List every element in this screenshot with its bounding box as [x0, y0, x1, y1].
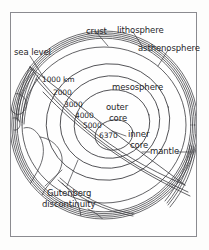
- depth-label-6370: 6370: [99, 132, 118, 140]
- depth-label-4000: 4000: [75, 112, 94, 120]
- label-crust: crust: [86, 27, 107, 36]
- label-asthenosphere: asthenosphere: [138, 44, 200, 53]
- sea-level-shell-bundle: [16, 67, 38, 124]
- depth-label-2000: 2000: [53, 89, 72, 97]
- depth-label-3000: 3000: [64, 101, 83, 109]
- label-inner-core-line2: core: [130, 141, 148, 150]
- label-mantle: mantle: [150, 147, 179, 156]
- diagram-canvas: crust lithosphere asthenosphere sea leve…: [0, 0, 209, 250]
- depth-label-5000: 5000: [83, 122, 102, 130]
- earth-cross-section-drawing: [0, 0, 209, 250]
- label-sea-level: sea level: [14, 48, 51, 57]
- label-outer-core-line2: core: [109, 114, 127, 123]
- label-inner-core-line1: inner: [128, 130, 149, 139]
- label-outer-core-line1: outer: [106, 103, 128, 112]
- label-gutenberg-line2: discontinuity: [42, 200, 95, 209]
- label-gutenberg-line1: Gutenberg: [47, 189, 91, 198]
- label-mesosphere: mesosphere: [112, 83, 163, 92]
- depth-label-1000km: 1000 km: [42, 76, 74, 84]
- label-lithosphere: lithosphere: [117, 26, 164, 35]
- leader-gutenberg: [45, 170, 62, 186]
